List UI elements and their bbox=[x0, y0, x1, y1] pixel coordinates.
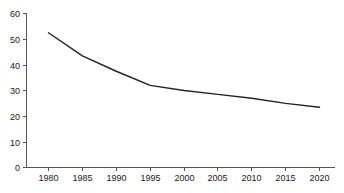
x-axis-tick-label: 2000 bbox=[174, 173, 194, 183]
y-axis-tick-label: 50 bbox=[10, 35, 20, 45]
line-chart-figure: 60 50 40 30 20 10 0 1980 1985 1990 1995 … bbox=[0, 0, 344, 193]
x-axis-tick-label: 1980 bbox=[38, 173, 58, 183]
x-axis-tick-label: 1995 bbox=[140, 173, 160, 183]
figure-note bbox=[3, 186, 341, 193]
chart-plot-area: 60 50 40 30 20 10 0 1980 1985 1990 1995 … bbox=[0, 0, 344, 193]
y-axis-tick-label: 20 bbox=[10, 112, 20, 122]
y-axis-group: 60 50 40 30 20 10 0 bbox=[10, 9, 27, 173]
x-axis-tick-label: 2020 bbox=[309, 173, 329, 183]
data-series-line bbox=[49, 33, 320, 107]
x-axis-tick-label: 2005 bbox=[207, 173, 227, 183]
y-axis-tick-label: 0 bbox=[15, 163, 20, 173]
x-axis-tick-label: 1990 bbox=[106, 173, 126, 183]
x-axis-tick-label: 2010 bbox=[241, 173, 261, 183]
x-axis-group: 1980 1985 1990 1995 2000 2005 2010 2015 … bbox=[27, 168, 336, 184]
x-axis-tick-label: 2015 bbox=[275, 173, 295, 183]
x-axis-tick-label: 1985 bbox=[72, 173, 92, 183]
y-axis-tick-label: 60 bbox=[10, 9, 20, 19]
y-axis-tick-label: 40 bbox=[10, 61, 20, 71]
y-axis-tick-label: 10 bbox=[10, 138, 20, 148]
y-axis-tick-label: 30 bbox=[10, 86, 20, 96]
